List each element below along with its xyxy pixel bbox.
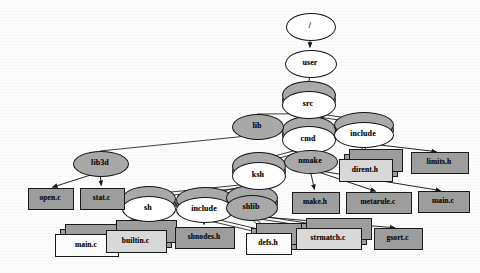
node-user[interactable]: user [285,50,335,76]
node-ksh[interactable]: ksh [232,162,284,188]
node-label: / [309,22,311,30]
node-root[interactable]: / [286,13,334,39]
node-include1[interactable]: include [334,122,392,146]
node-src[interactable]: src [282,91,334,117]
node-sh[interactable]: sh [122,196,174,220]
node-defs_h[interactable]: defs.h [246,233,290,253]
node-label: stat.c [93,194,110,202]
node-label: main.c [75,241,97,249]
node-dirent_h[interactable]: dirent.h [339,159,391,180]
node-label: limits.h [427,158,452,166]
node-include2[interactable]: include [176,197,232,221]
node-label: include [350,130,376,138]
node-label: builtin.c [122,237,149,245]
diagram-canvas: /usersrclibcmdincludelib3dkshnmakeshincl… [0,0,480,273]
node-label: user [302,59,317,67]
node-label: dirent.h [352,166,378,174]
node-metarule_c[interactable]: metarule.c [346,192,410,212]
node-strmatch_c[interactable]: strmatch.c [296,228,360,248]
node-label: strmatch.c [311,234,346,242]
node-label: lib [252,122,261,130]
node-label: main.c [432,197,454,205]
node-make_h[interactable]: make.h [292,192,338,212]
node-label: lib3d [91,159,109,167]
node-label: sh [144,204,152,212]
node-label: nmake [298,157,322,165]
node-label: cmd [301,135,316,143]
node-label: open.c [39,194,60,202]
node-label: gsort.c [386,234,408,242]
node-label: defs.h [258,239,278,247]
node-label: include [191,205,217,213]
node-nmake[interactable]: nmake [284,150,336,172]
node-gsort_c[interactable]: gsort.c [374,228,421,248]
node-stat_c[interactable]: stat.c [80,188,123,208]
node-label: metarule.c [361,198,396,206]
node-shnodes_h[interactable]: shnodes.h [175,227,233,247]
node-lib3d[interactable]: lib3d [73,151,127,175]
node-label: shnodes.h [188,233,220,241]
node-cmd[interactable]: cmd [282,126,334,152]
node-label: make.h [303,198,327,206]
node-label: ksh [252,171,264,179]
node-label: shlib [243,203,260,211]
node-lib[interactable]: lib [232,114,282,138]
node-main_c_r[interactable]: main.c [418,191,468,211]
node-limits_h[interactable]: limits.h [411,152,467,172]
node-label: src [303,100,313,108]
node-open_c[interactable]: open.c [28,188,72,208]
node-shlib[interactable]: shlib [226,195,276,219]
node-builtin_c[interactable]: builtin.c [106,230,165,251]
